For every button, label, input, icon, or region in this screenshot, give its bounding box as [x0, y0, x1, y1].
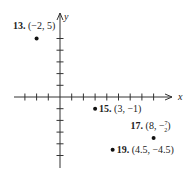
- data-point-13: [35, 37, 39, 41]
- point-number: 13.: [13, 20, 28, 31]
- point-coords: (−2, 5): [28, 20, 55, 32]
- y-axis-label: y: [63, 11, 69, 22]
- data-point-17: [152, 136, 156, 140]
- point-number: 17.: [131, 120, 146, 131]
- point-label-17: 17. (8, −72): [131, 120, 171, 133]
- point-label-15: 15. (3, −1): [99, 103, 141, 115]
- point-coords: (3, −1): [114, 103, 141, 115]
- data-point-19: [111, 148, 115, 152]
- point-coords: (4.5, −4.5): [132, 144, 174, 156]
- point-number: 15.: [99, 103, 114, 114]
- points: 13. (−2, 5)15. (3, −1)17. (8, −72)19. (4…: [13, 20, 174, 157]
- data-point-15: [93, 107, 97, 111]
- point-coords: (8, −: [146, 120, 165, 132]
- coordinate-plane: 13. (−2, 5)15. (3, −1)17. (8, −72)19. (4…: [0, 0, 186, 175]
- point-label-13: 13. (−2, 5): [13, 20, 55, 32]
- point-label-19: 19. (4.5, −4.5): [117, 144, 174, 156]
- point-coords-close: ): [167, 120, 170, 132]
- point-number: 19.: [117, 144, 132, 155]
- x-axis-label: x: [177, 91, 183, 102]
